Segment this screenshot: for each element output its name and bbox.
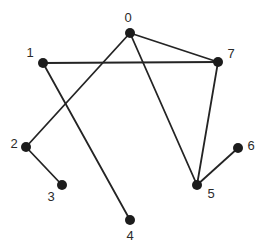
graph-node-6 [233,143,243,153]
graph-node-label-2: 2 [10,136,17,151]
graph-edge-0-5 [130,33,197,185]
graph-node-label-3: 3 [47,189,54,204]
graph-node-label-1: 1 [26,45,33,60]
graph-node-2 [21,142,31,152]
graph-node-5 [192,180,202,190]
graph-node-1 [38,58,48,68]
graph-node-7 [213,57,223,67]
label-layer: 01234567 [10,10,254,243]
graph-node-3 [57,180,67,190]
graph-node-label-4: 4 [126,228,133,243]
graph-figure: 01234567 [0,0,263,252]
graph-edge-0-7 [130,33,218,62]
graph-canvas: 01234567 [0,0,263,252]
edge-layer [26,33,238,220]
graph-node-4 [125,215,135,225]
graph-edge-2-3 [26,147,62,185]
graph-node-label-5: 5 [207,186,214,201]
graph-node-0 [125,28,135,38]
graph-node-label-7: 7 [227,46,234,61]
graph-edge-1-4 [43,63,130,220]
graph-node-label-6: 6 [247,138,254,153]
graph-edge-5-7 [197,62,218,185]
graph-edge-1-7 [43,62,218,63]
graph-edge-0-2 [26,33,130,147]
graph-node-label-0: 0 [124,10,131,25]
